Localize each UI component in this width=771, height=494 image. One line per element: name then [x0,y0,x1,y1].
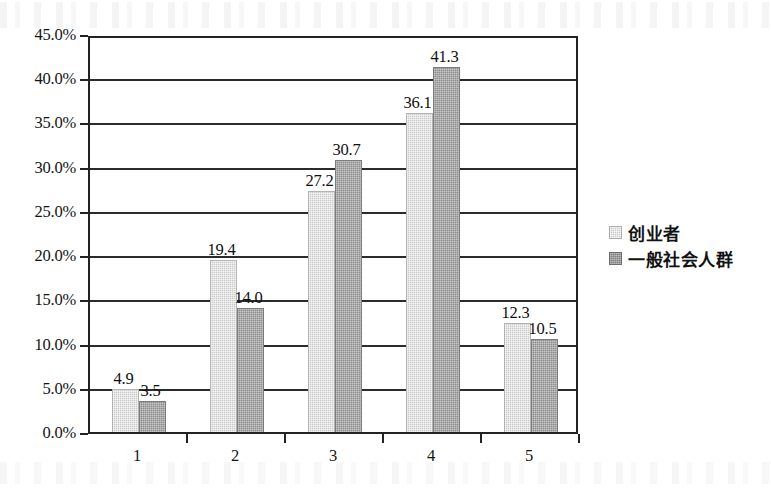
x-axis-tick-mark [480,434,482,443]
x-axis-tick-label-1: 1 [117,446,157,466]
y-axis-tick-mark [80,433,88,435]
chart-legend: 创业者一般社会人群 [609,219,733,271]
y-axis-tick-mark [80,168,88,170]
y-axis-tick-mark [80,35,88,37]
y-axis-tick-label: 25.0% [0,202,76,222]
bar-series-0-category-4 [406,113,433,432]
legend-item-label: 创业者 [628,220,681,245]
y-axis-tick-label: 45.0% [0,25,76,45]
bar-value-label: 27.2 [297,171,343,191]
legend-item-1: 一般社会人群 [609,245,733,271]
bar-value-label: 14.0 [226,288,272,308]
gridline [90,79,576,81]
y-axis-tick-label: 30.0% [0,158,76,178]
gridline [90,168,576,170]
y-axis-tick-label: 35.0% [0,113,76,133]
bar-series-1-category-3 [335,160,362,432]
bar-value-label: 3.5 [128,381,174,401]
legend-swatch-icon [609,252,622,265]
x-axis-tick-mark [382,434,384,443]
y-axis-tick-label: 10.0% [0,335,76,355]
bar-series-1-category-2 [237,308,264,432]
x-axis-tick-label-5: 5 [509,446,549,466]
legend-item-0: 创业者 [609,219,733,245]
x-axis-tick-label-3: 3 [313,446,353,466]
bar-series-0-category-2 [210,260,237,432]
bar-series-1-category-1 [139,401,166,432]
bar-value-label: 36.1 [395,93,441,113]
y-axis-tick-mark [80,123,88,125]
y-axis-tick-label: 15.0% [0,290,76,310]
bar-value-label: 19.4 [199,240,245,260]
x-axis-tick-label-2: 2 [215,446,255,466]
bar-series-1-category-4 [433,67,460,432]
y-axis-tick-mark [80,300,88,302]
legend-item-label: 一般社会人群 [628,246,733,271]
x-axis-tick-mark [578,434,580,443]
bar-value-label: 30.7 [324,140,370,160]
bar-chart: 45.0%40.0%35.0%30.0%25.0%20.0%15.0%10.0%… [0,0,771,494]
bar-series-0-category-3 [308,191,335,432]
x-axis-tick-mark [186,434,188,443]
y-axis-tick-mark [80,389,88,391]
bar-series-1-category-5 [531,339,558,432]
y-axis-tick-label: 20.0% [0,246,76,266]
y-axis-tick-mark [80,212,88,214]
legend-swatch-icon [609,226,622,239]
bar-value-label: 41.3 [422,47,468,67]
plot-area [88,36,578,434]
y-axis-tick-label: 0.0% [0,423,76,443]
y-axis-tick-mark [80,345,88,347]
y-axis-tick-label: 5.0% [0,379,76,399]
x-axis-tick-mark [284,434,286,443]
gridline [90,123,576,125]
y-axis-tick-label: 40.0% [0,69,76,89]
y-axis-tick-mark [80,79,88,81]
y-axis-tick-mark [80,256,88,258]
x-axis-tick-label-4: 4 [411,446,451,466]
bar-value-label: 10.5 [520,319,566,339]
bar-series-0-category-5 [504,323,531,432]
